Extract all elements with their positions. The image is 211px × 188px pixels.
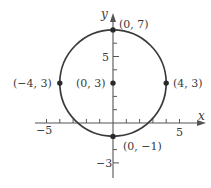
point-top [110, 27, 115, 32]
y-axis-arrow-icon [110, 13, 116, 22]
point-center [110, 80, 115, 85]
y-axis [110, 13, 119, 178]
x-tick-label-neg5: −5 [36, 124, 52, 137]
y-tick-label-neg3: −3 [96, 157, 112, 170]
point-label-bottom: (0, −1) [123, 140, 162, 153]
point-label-top: (0, 7) [119, 18, 149, 31]
point-bottom [110, 134, 115, 139]
circle-diagram: y x −5 5 5 −3 (0, 7) (−4, 3) (0, 3) (4, … [0, 0, 211, 188]
y-tick-label-5: 5 [102, 51, 109, 64]
x-axis-label: x [198, 109, 205, 123]
x-tick-label-5: 5 [176, 126, 183, 139]
point-left [57, 80, 62, 85]
y-axis-label: y [100, 7, 108, 21]
point-label-right: (4, 3) [173, 77, 203, 90]
point-label-center: (0, 3) [76, 77, 106, 90]
point-right [164, 80, 169, 85]
x-axis [35, 119, 206, 126]
point-label-left: (−4, 3) [13, 77, 52, 90]
